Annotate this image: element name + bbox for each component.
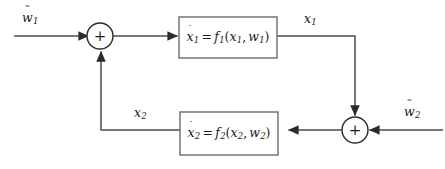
block-diagram-canvas: + + ˙x1=f1(x1,w1) ˙x2=f2(x2,w2) ˜w1 x1 x…	[0, 0, 445, 169]
signal-label-external-input-1: ˜w1	[22, 10, 38, 26]
block1-close-paren: )	[265, 29, 270, 44]
block-subsystem-2-equation: ˙x2=f2(x2,w2)	[180, 112, 278, 155]
w-tilde-accent-2: ˜w	[404, 106, 415, 119]
summing-junction-left-sign: +	[92, 29, 108, 44]
x-dot-accent-2: ˙x	[188, 127, 195, 140]
block-subsystem-1-equation: ˙x1=f1(x1,w1)	[179, 17, 277, 58]
x-dot-accent-1: ˙x	[187, 31, 194, 44]
block2-equals: =	[200, 125, 215, 140]
summing-junction-right-sign: +	[347, 123, 363, 138]
wire-block1-to-sum2	[277, 36, 355, 116]
signal-1-subscript: 1	[33, 16, 39, 26]
block1-equals: =	[199, 29, 214, 44]
signal-2-symbol: x	[304, 11, 311, 26]
block2-arg-input: w	[249, 125, 260, 140]
block2-close-paren: )	[266, 125, 271, 140]
signal-2-subscript: 1	[311, 17, 317, 27]
block1-arg-input: w	[248, 29, 259, 44]
signal-label-state-output-2: x2	[134, 105, 147, 121]
w-tilde-accent-1: ˜w	[22, 12, 33, 25]
signal-label-external-input-2: ˜w2	[404, 104, 420, 120]
signal-3-subscript: 2	[141, 111, 147, 121]
block2-arg-state: x	[230, 125, 237, 140]
signal-3-symbol: x	[134, 105, 141, 120]
block1-arg-state: x	[229, 29, 236, 44]
signal-4-subscript: 2	[415, 110, 421, 120]
signal-label-state-output-1: x1	[304, 11, 317, 27]
